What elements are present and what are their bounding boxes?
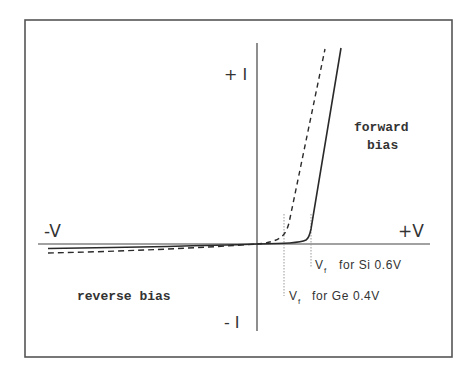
forward-bias-label-line2: bias bbox=[367, 138, 398, 153]
si-vf-subscript: f bbox=[324, 266, 327, 275]
minus-current-label: - I bbox=[224, 313, 240, 332]
minus-voltage-label: -V bbox=[44, 221, 61, 241]
ge-vf-text: for Ge 0.4V bbox=[312, 289, 380, 303]
reverse-bias-label: reverse bias bbox=[77, 289, 171, 304]
si-vf-text: for Si 0.6V bbox=[339, 258, 402, 272]
si-curve-reverse bbox=[48, 244, 257, 249]
plus-voltage-label: +V bbox=[398, 221, 424, 241]
ge-vf-subscript: f bbox=[298, 297, 301, 306]
si-curve-forward bbox=[257, 48, 341, 244]
forward-bias-label-line1: forward bbox=[354, 120, 409, 135]
ge-forward-voltage-annotation: V f for Ge 0.4V bbox=[289, 289, 380, 306]
diode-iv-diagram: + I - I +V -V forward bias reverse bias … bbox=[0, 0, 472, 369]
ge-curve-forward bbox=[257, 49, 325, 244]
si-vf-symbol: V bbox=[315, 258, 323, 272]
ge-vf-symbol: V bbox=[289, 289, 297, 303]
si-forward-voltage-annotation: V f for Si 0.6V bbox=[315, 258, 402, 275]
plus-current-label: + I bbox=[224, 65, 247, 84]
